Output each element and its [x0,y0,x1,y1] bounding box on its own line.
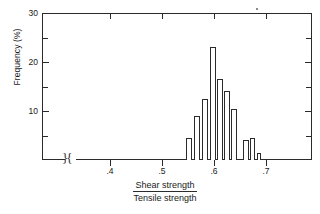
histogram-bars [42,13,312,160]
x-axis-title: Shear strength Tensile strength [110,180,220,203]
x-tick-label-0.6: .6 [204,166,224,176]
histogram-bar [194,116,200,160]
histogram-figure: Frequency (%) 30 20 10 .4 .5 .6 .7 }{ Sh… [0,0,320,214]
histogram-bar [231,109,237,160]
histogram-bar [217,79,223,160]
histogram-bar [224,91,230,160]
histogram-bar [257,153,262,160]
x-tick-label-0.7: .7 [256,166,276,176]
y-tick-label-20: 20 [29,57,38,67]
y-tick-label-10: 10 [29,106,38,116]
x-tick-label-0.5: .5 [152,166,172,176]
histogram-bar [243,140,249,160]
print-speck [256,8,258,10]
x-tick-label-0.4: .4 [100,166,120,176]
histogram-bar [250,138,256,160]
x-axis-title-denominator: Tensile strength [133,192,196,203]
histogram-bar [186,138,192,160]
x-axis-title-numerator: Shear strength [133,180,196,192]
histogram-bar [210,47,216,160]
histogram-bar [202,99,208,160]
y-tick-label-30: 30 [29,8,38,18]
y-axis-title: Frequency (%) [12,2,22,112]
